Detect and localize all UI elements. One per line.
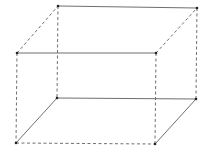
- bottom-left-edge: [16, 98, 57, 143]
- vertex-top-back-right: [196, 7, 199, 10]
- vertical-front-right: [155, 53, 156, 144]
- top-right-edge: [156, 8, 197, 53]
- vertex-bottom-back-left: [56, 97, 59, 100]
- vertical-back-right: [196, 8, 197, 99]
- bottom-front-edge: [16, 143, 155, 144]
- vertex-bottom-back-right: [195, 98, 198, 101]
- vertical-back-left: [57, 6, 58, 98]
- edges-group: [16, 6, 197, 144]
- top-back-edge: [58, 6, 197, 8]
- vertices-group: [15, 5, 199, 146]
- vertex-top-back-left: [57, 5, 60, 8]
- box-diagram: [0, 0, 208, 153]
- top-left-edge: [17, 6, 58, 53]
- vertex-top-front-left: [16, 52, 19, 55]
- vertical-front-left: [16, 53, 17, 143]
- vertex-top-front-right: [155, 52, 158, 55]
- vertex-bottom-front-left: [15, 142, 18, 145]
- bottom-back-edge: [57, 98, 196, 99]
- bottom-right-edge: [155, 99, 196, 144]
- vertex-bottom-front-right: [154, 143, 157, 146]
